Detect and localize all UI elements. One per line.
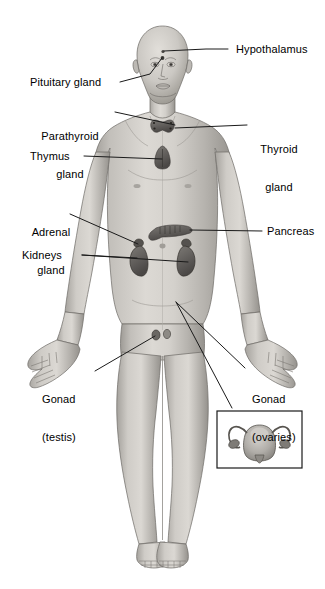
label-kidneys: Kidneys (22, 249, 62, 262)
label-parathyroid-gland-line1: Parathyroid (28, 130, 112, 143)
label-adrenal-gland-line2: gland (22, 264, 80, 277)
label-hypothalamus: Hypothalamus (236, 43, 308, 56)
label-gonad-testis-line1: Gonad (42, 393, 76, 406)
label-gonad-ovaries-line1: Gonad (252, 393, 296, 406)
label-gonad-ovaries-line2: (ovaries) (252, 431, 296, 444)
label-gonad-ovaries: Gonad (ovaries) (252, 368, 296, 468)
label-thyroid-gland: Thyroid gland (252, 118, 306, 218)
gonad-testis-organ-left (152, 330, 160, 340)
label-thyroid-gland-line2: gland (252, 181, 306, 194)
gonad-testis-organ-right (163, 329, 170, 338)
label-gonad-testis-line2: (testis) (42, 431, 76, 444)
label-gonad-testis: Gonad (testis) (42, 368, 76, 468)
label-pancreas: Pancreas (267, 225, 314, 238)
label-pituitary-gland: Pituitary gland (30, 76, 101, 89)
label-thymus: Thymus (30, 150, 70, 163)
label-adrenal-gland-line1: Adrenal (22, 226, 80, 239)
endocrine-system-diagram: Hypothalamus Pituitary gland Parathyroid… (0, 0, 325, 589)
label-parathyroid-gland-line2: gland (28, 168, 112, 181)
hypothalamus-organ (161, 50, 164, 53)
label-thyroid-gland-line1: Thyroid (252, 143, 306, 156)
kidney-left-organ (130, 246, 148, 276)
